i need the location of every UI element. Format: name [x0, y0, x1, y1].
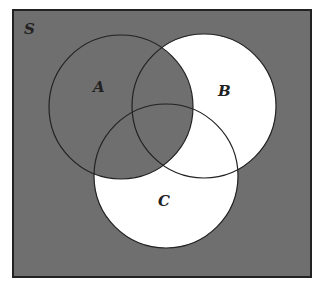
- venn-diagram: S A B C: [0, 0, 322, 288]
- set-a-fill: [49, 35, 193, 179]
- label-b: B: [217, 82, 231, 100]
- label-a: A: [91, 78, 105, 96]
- label-s: S: [24, 20, 35, 38]
- label-c: C: [158, 192, 170, 210]
